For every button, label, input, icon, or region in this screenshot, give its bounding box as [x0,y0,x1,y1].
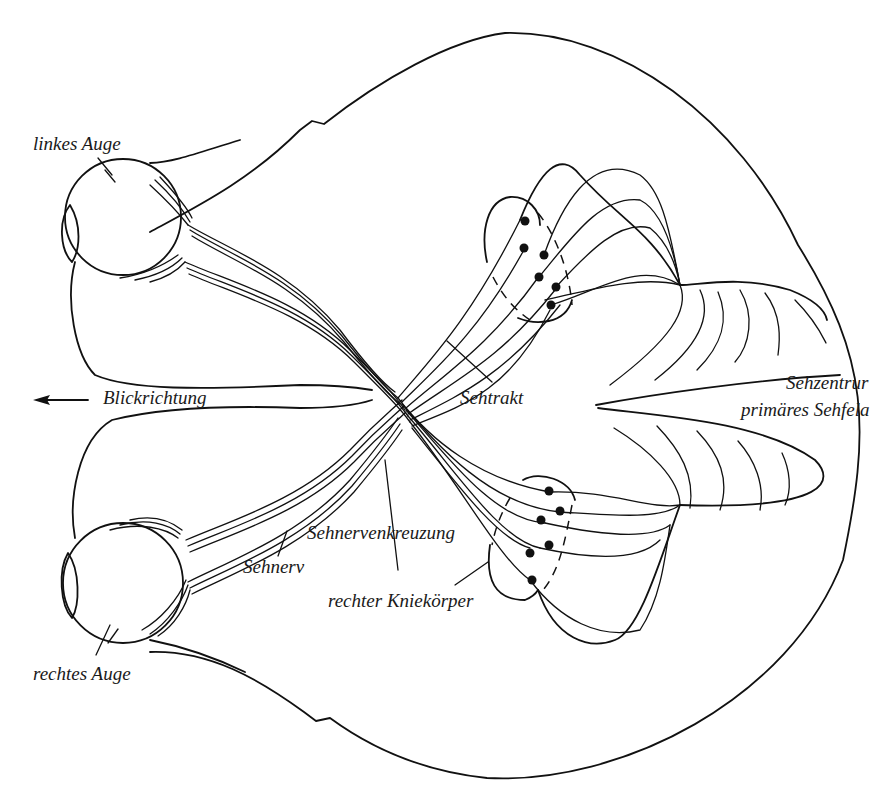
optic-chiasm-label: Sehnervenkreuzung [307,523,455,542]
chiasm-leader [385,460,398,570]
optic-nerve-label: Sehnerv [243,557,304,576]
lgn-leader [455,562,488,585]
visual-center-label: Sehzentrur [786,373,868,392]
left-optic-nerve [185,225,410,422]
arrow-left-icon [33,395,88,405]
right-eye-drawing [62,518,190,655]
right-lgn-label: rechter Kniekörper [328,591,473,610]
gaze-direction-label: Blickrichtung [103,388,206,407]
right-eye-label: rechtes Auge [33,664,131,683]
visual-pathway-diagram: linkes Auge Blickrichtung Sehtrakt Sehze… [0,0,887,787]
primary-visual-field-label: primäres Sehfela [741,400,870,419]
left-eye-label: linkes Auge [33,134,121,153]
right-optic-tract [398,398,560,580]
upper-optic-radiation [520,164,840,405]
optic-tract-label: Sehtrakt [460,388,523,407]
right-eye-leader [108,629,118,643]
left-lgn [485,197,572,322]
lower-optic-radiation [530,408,823,643]
